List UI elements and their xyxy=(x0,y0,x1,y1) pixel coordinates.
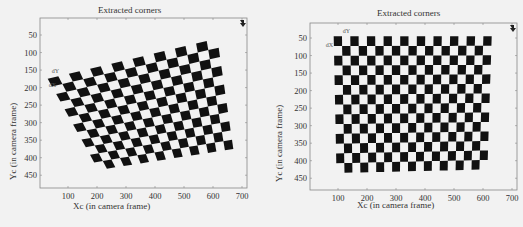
y-tick-label: 100 xyxy=(294,51,307,61)
x-tick-label: 400 xyxy=(149,191,162,201)
checkerboard xyxy=(48,41,234,169)
x-tick-label: 600 xyxy=(477,193,490,203)
dx-annotation: dX xyxy=(49,82,57,88)
y-tick-label: 150 xyxy=(294,68,307,78)
y-tick-label: 300 xyxy=(294,121,307,131)
y-tick-label: 250 xyxy=(294,103,307,113)
dx-annotation: dX xyxy=(326,42,334,48)
x-tick-label: 300 xyxy=(390,193,403,203)
dy-annotation: dY xyxy=(52,68,60,74)
x-tick-label: 300 xyxy=(120,191,133,201)
y-tick-label: 150 xyxy=(24,65,37,75)
x-tick-label: 600 xyxy=(207,191,220,201)
chart-plot-area: 1002003004005006007005010015020025030035… xyxy=(0,0,262,227)
y-tick-label: 400 xyxy=(294,156,307,166)
y-tick-label: 50 xyxy=(29,30,38,40)
x-tick-label: 500 xyxy=(448,193,461,203)
camera-frame-icon xyxy=(510,25,516,32)
y-tick-label: 100 xyxy=(24,48,37,58)
y-tick-label: 250 xyxy=(24,100,37,110)
chart-plot-area: 1002003004005006007005010015020025030035… xyxy=(262,0,523,227)
x-tick-label: 700 xyxy=(506,193,519,203)
camera-frame-icon xyxy=(240,20,246,27)
x-tick-label: 700 xyxy=(236,191,249,201)
y-tick-label: 200 xyxy=(294,86,307,96)
y-tick-label: 450 xyxy=(294,173,307,183)
y-tick-label: 350 xyxy=(294,138,307,148)
checkerboard xyxy=(334,36,492,173)
y-tick-label: 350 xyxy=(24,135,37,145)
x-tick-label: 400 xyxy=(419,193,432,203)
y-tick-label: 50 xyxy=(299,33,308,43)
x-tick-label: 500 xyxy=(178,191,191,201)
x-tick-label: 200 xyxy=(91,191,104,201)
dy-annotation: dY xyxy=(343,28,351,34)
y-tick-label: 400 xyxy=(24,153,37,163)
x-tick-label: 200 xyxy=(361,193,374,203)
y-tick-label: 200 xyxy=(24,83,37,93)
x-tick-label: 100 xyxy=(62,191,75,201)
x-tick-label: 100 xyxy=(332,193,345,203)
y-tick-label: 300 xyxy=(24,118,37,128)
left-chart-panel: Extracted corners Yc (in camera frame) X… xyxy=(0,0,262,227)
y-tick-label: 450 xyxy=(24,170,37,180)
right-chart-panel: Extracted corners Yc (in camera frame) X… xyxy=(262,0,523,227)
